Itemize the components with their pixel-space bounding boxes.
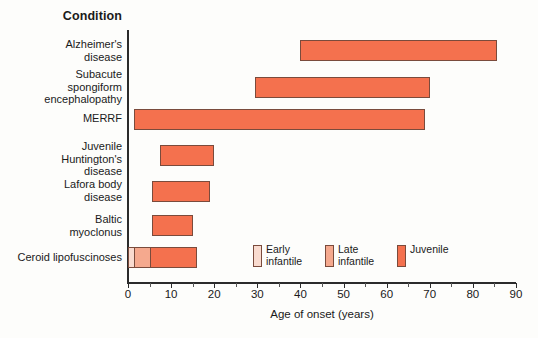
legend-swatch-icon <box>253 245 262 267</box>
legend-swatch-icon <box>397 245 406 267</box>
category-label-line: MERRF <box>4 112 122 125</box>
category-label-line: disease <box>4 165 122 178</box>
x-tick-label-60: 60 <box>367 288 407 300</box>
bar-subacute-spongiform-encephalopathy <box>255 77 430 98</box>
legend: Early infantileLate infantileJuvenile <box>253 244 449 267</box>
x-tick-minor-5 <box>150 283 151 287</box>
x-tick-minor-15 <box>193 283 194 287</box>
bar-lafora-body-disease <box>152 181 210 202</box>
x-tick-label-70: 70 <box>410 288 450 300</box>
x-tick-label-10: 10 <box>151 288 191 300</box>
category-label-line: encephalopathy <box>4 93 122 106</box>
legend-label: Late infantile <box>338 244 388 267</box>
bar-segment-late-infantile <box>134 248 150 267</box>
x-tick-minor-65 <box>408 283 409 287</box>
x-tick-minor-75 <box>451 283 452 287</box>
category-label-alzheimer-s-disease: Alzheimer'sdisease <box>4 38 128 63</box>
category-label-line: Ceroid lipofuscinoses <box>4 251 122 264</box>
legend-label: Juvenile <box>410 244 449 256</box>
bar-ceroid-lipofuscinoses <box>128 247 197 268</box>
bar-segment-juvenile <box>256 78 429 97</box>
category-label-lafora-body-disease: Lafora bodydisease <box>4 178 128 203</box>
x-tick-minor-55 <box>365 283 366 287</box>
legend-swatch-icon <box>325 245 334 267</box>
category-label-line: Baltic <box>4 213 122 226</box>
category-label-subacute-spongiform-encephalopathy: Subacutespongiformencephalopathy <box>4 68 128 106</box>
category-label-line: Juvenile <box>4 140 122 153</box>
x-tick-label-90: 90 <box>496 288 536 300</box>
bar-baltic-myoclonus <box>152 215 193 236</box>
x-tick-minor-35 <box>279 283 280 287</box>
bar-segment-juvenile <box>150 248 196 267</box>
category-label-line: Alzheimer's <box>4 38 122 51</box>
bar-segment-juvenile <box>153 182 209 201</box>
x-tick-minor-25 <box>236 283 237 287</box>
category-label-line: myoclonus <box>4 226 122 239</box>
legend-item-late-infantile: Late infantile <box>325 244 388 267</box>
bar-segment-juvenile <box>135 110 424 129</box>
x-tick-minor-85 <box>494 283 495 287</box>
category-label-juvenile-huntington-s-disease: JuvenileHuntington'sdisease <box>4 140 128 178</box>
legend-item-juvenile: Juvenile <box>397 244 449 267</box>
bar-segment-juvenile <box>161 146 213 165</box>
x-tick-label-50: 50 <box>324 288 364 300</box>
x-axis-title: Age of onset (years) <box>128 308 516 320</box>
category-label-ceroid-lipofuscinoses: Ceroid lipofuscinoses <box>4 251 128 264</box>
x-tick-label-80: 80 <box>453 288 493 300</box>
category-label-baltic-myoclonus: Balticmyoclonus <box>4 213 128 238</box>
x-tick-label-30: 30 <box>237 288 277 300</box>
category-label-line: spongiform <box>4 81 122 94</box>
x-tick-minor-45 <box>322 283 323 287</box>
legend-item-early-infantile: Early infantile <box>253 244 316 267</box>
category-label-line: disease <box>4 51 122 64</box>
bar-segment-juvenile <box>301 41 495 60</box>
category-label-line: Lafora body <box>4 178 122 191</box>
category-label-line: disease <box>4 191 122 204</box>
legend-label: Early infantile <box>266 244 316 267</box>
age-of-onset-chart: Condition Alzheimer'sdiseaseSubacutespon… <box>0 0 538 338</box>
category-label-line: Huntington's <box>4 153 122 166</box>
x-tick-label-20: 20 <box>194 288 234 300</box>
bar-juvenile-huntington-s-disease <box>160 145 214 166</box>
bar-alzheimer-s-disease <box>300 40 496 61</box>
category-label-line: Subacute <box>4 68 122 81</box>
x-tick-label-0: 0 <box>108 288 148 300</box>
category-label-merrf: MERRF <box>4 112 128 125</box>
bar-segment-juvenile <box>153 216 192 235</box>
bar-merrf <box>134 109 425 130</box>
x-tick-label-40: 40 <box>280 288 320 300</box>
